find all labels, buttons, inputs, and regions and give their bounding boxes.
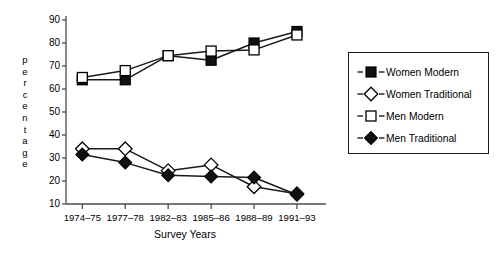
legend-marker-shape bbox=[366, 111, 376, 121]
y-axis-title-letter: p bbox=[22, 54, 27, 66]
data-point-marker bbox=[249, 45, 259, 55]
x-tick-marks bbox=[82, 204, 297, 209]
data-point-marker bbox=[120, 66, 130, 76]
legend-marker-open-square-icon bbox=[356, 108, 386, 124]
data-point-marker bbox=[206, 46, 216, 56]
y-tick-label: 50 bbox=[38, 106, 60, 117]
legend-marker-filled-diamond-icon bbox=[356, 130, 386, 146]
y-tick-label: 20 bbox=[38, 175, 60, 186]
legend-item: Men Traditional bbox=[349, 127, 488, 149]
series-line bbox=[82, 149, 297, 194]
y-axis-title-letter: r bbox=[23, 77, 26, 89]
legend-marker-svg bbox=[356, 86, 386, 102]
legend-item: Men Modern bbox=[349, 105, 488, 127]
y-axis-title-letter: e bbox=[22, 100, 27, 112]
y-axis-title-letter: e bbox=[22, 158, 27, 170]
legend-marker-shape bbox=[364, 87, 378, 101]
legend-marker-shape bbox=[365, 132, 378, 145]
data-point-marker bbox=[77, 73, 87, 83]
data-point-marker bbox=[206, 55, 216, 65]
y-tick-label: 10 bbox=[38, 198, 60, 209]
y-axis-title-letter: n bbox=[22, 112, 27, 124]
data-point-marker bbox=[118, 142, 132, 156]
y-tick-label: 60 bbox=[38, 83, 60, 94]
data-point-marker bbox=[120, 75, 130, 85]
legend-marker-filled-square-icon bbox=[356, 64, 386, 80]
y-tick-label: 90 bbox=[38, 14, 60, 25]
y-tick-label: 70 bbox=[38, 60, 60, 71]
legend-marker-svg bbox=[356, 130, 386, 146]
data-point-marker bbox=[205, 170, 218, 183]
legend-marker-svg bbox=[356, 108, 386, 124]
legend-item: Women Traditional bbox=[349, 83, 488, 105]
legend-marker-open-diamond-icon bbox=[356, 86, 386, 102]
x-axis-title: Survey Years bbox=[60, 228, 310, 240]
y-tick-label: 80 bbox=[38, 37, 60, 48]
legend-label: Women Traditional bbox=[386, 89, 472, 100]
y-tick-label: 30 bbox=[38, 152, 60, 163]
legend-label: Women Modern bbox=[386, 67, 459, 78]
data-point-marker bbox=[291, 188, 304, 201]
y-axis-title-letter: c bbox=[23, 89, 28, 101]
y-axis-title-letter: a bbox=[22, 135, 27, 147]
y-axis-title-letter: g bbox=[22, 147, 27, 159]
data-point-marker bbox=[163, 51, 173, 61]
legend-marker-svg bbox=[356, 64, 386, 80]
legend-item: Women Modern bbox=[349, 61, 488, 83]
data-point-marker bbox=[119, 156, 132, 169]
series-line bbox=[82, 35, 297, 78]
legend-label: Men Traditional bbox=[386, 133, 456, 144]
chart-legend: Women ModernWomen TraditionalMen ModernM… bbox=[348, 52, 489, 154]
y-axis-title-letter: e bbox=[22, 66, 27, 78]
chart-figure: percentage 102030405060708090 1974–75197… bbox=[0, 0, 500, 255]
y-tick-label: 40 bbox=[38, 129, 60, 140]
y-axis-title-letter: t bbox=[24, 124, 27, 136]
data-point-marker bbox=[292, 30, 302, 40]
data-point-marker bbox=[248, 171, 261, 184]
series-lines bbox=[82, 32, 297, 195]
y-axis-title: percentage bbox=[16, 54, 34, 170]
legend-marker-shape bbox=[366, 67, 376, 77]
legend-label: Men Modern bbox=[386, 111, 444, 122]
x-tick-label: 1991–93 bbox=[269, 212, 325, 223]
